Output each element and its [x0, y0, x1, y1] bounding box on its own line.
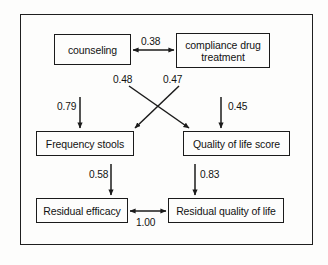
- node-quality-of-life-score-label: Quality of life score: [193, 138, 280, 150]
- node-frequency-stools-label: Frequency stools: [46, 138, 124, 150]
- edge-label-quality-residual-quality: 0.83: [200, 169, 219, 180]
- edge-label-residual-efficacy-residual-quality: 1.00: [136, 217, 155, 228]
- node-quality-of-life-score: Quality of life score: [183, 131, 290, 156]
- edge-label-counseling-compliance: 0.38: [141, 36, 160, 47]
- path-diagram-figure: counseling compliance drug treatment Fre…: [0, 0, 328, 265]
- node-counseling-label: counseling: [68, 44, 117, 56]
- node-frequency-stools: Frequency stools: [36, 131, 134, 156]
- node-residual-efficacy-label: Residual efficacy: [43, 205, 120, 217]
- edge-label-frequency-residual-efficacy: 0.58: [89, 169, 108, 180]
- edge-label-to-quality-of-life: 0.45: [228, 101, 247, 112]
- edge-label-compliance-frequency: 0.47: [163, 74, 182, 85]
- node-compliance-drug-treatment: compliance drug treatment: [176, 33, 270, 68]
- node-counseling: counseling: [54, 34, 131, 65]
- edge-label-counseling-quality: 0.48: [113, 74, 132, 85]
- node-residual-efficacy: Residual efficacy: [36, 198, 128, 223]
- edge-compliance-to-frequency: [135, 86, 179, 128]
- edge-counseling-to-quality: [129, 86, 189, 128]
- node-compliance-drug-treatment-label: compliance drug treatment: [177, 39, 269, 63]
- node-residual-quality-of-life-label: Residual quality of life: [176, 205, 276, 217]
- node-residual-quality-of-life: Residual quality of life: [168, 198, 284, 223]
- edge-label-to-frequency-stools: 0.79: [57, 101, 76, 112]
